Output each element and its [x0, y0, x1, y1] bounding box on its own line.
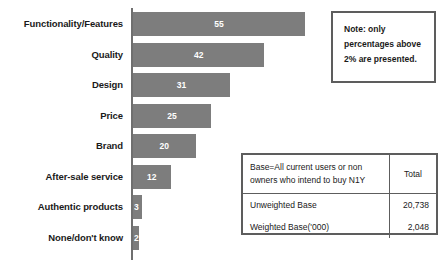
table-header-description-line-1: Base=All current users or non — [250, 161, 385, 174]
bar-value-label: 12 — [146, 165, 158, 189]
bar-row: Design31 — [0, 73, 320, 97]
table-header-description: Base=All current users or non owners who… — [243, 155, 390, 194]
bar-row: Price25 — [0, 104, 320, 128]
table-row-label: Weighted Base('000) — [243, 216, 390, 238]
bar-value-label: 55 — [213, 12, 225, 36]
table-header-description-line-2: owners who intend to buy N1Y — [250, 174, 385, 187]
note-line-2: percentages above — [344, 37, 425, 52]
bar-value-label: 2 — [134, 226, 140, 250]
table-row: Unweighted Base 20,738 — [243, 194, 436, 217]
bar-row: Quality42 — [0, 43, 320, 67]
bar-category-label: Functionality/Features — [0, 12, 123, 36]
bar-value-label: 25 — [166, 104, 178, 128]
bar-category-label: Design — [0, 73, 123, 97]
base-table: Base=All current users or non owners who… — [241, 153, 438, 235]
chart-page: Functionality/Features55Quality42Design3… — [0, 0, 447, 268]
bar-row: Functionality/Features55 — [0, 12, 320, 36]
bar-value-label: 42 — [193, 43, 205, 67]
table-row-value: 20,738 — [390, 194, 437, 217]
bar-value-label: 3 — [134, 195, 143, 219]
bar-value-label: 20 — [158, 134, 170, 158]
table-row: Weighted Base('000) 2,048 — [243, 216, 436, 238]
table-header-total: Total — [390, 155, 437, 194]
bar-category-label: After-sale service — [0, 165, 123, 189]
note-box: Note: only percentages above 2% are pres… — [331, 11, 436, 83]
table-row-value: 2,048 — [390, 216, 437, 238]
bar-category-label: Authentic products — [0, 195, 123, 219]
bar-category-label: Brand — [0, 134, 123, 158]
table-header-row: Base=All current users or non owners who… — [243, 155, 436, 194]
bar-category-label: Quality — [0, 43, 123, 67]
note-line-1: Note: only — [344, 22, 425, 37]
bar-category-label: Price — [0, 104, 123, 128]
bar-category-label: None/don't know — [0, 226, 123, 250]
bar-value-label: 31 — [175, 73, 187, 97]
table-row-label: Unweighted Base — [243, 194, 390, 217]
note-line-3: 2% are presented. — [344, 52, 425, 67]
